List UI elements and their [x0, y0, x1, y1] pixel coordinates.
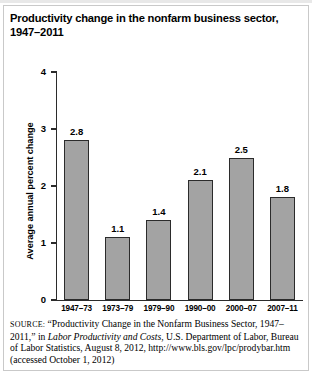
y-axis-tick [51, 185, 57, 186]
bar [229, 158, 254, 301]
bar-value-label: 2.1 [180, 167, 221, 177]
bar-value-label: 1.8 [262, 184, 303, 194]
bar [270, 197, 295, 300]
y-axis-tick-label: 3 [24, 124, 46, 134]
source-label: SOURCE: [10, 320, 45, 329]
y-axis-tick [51, 299, 57, 300]
bar-value-label: 2.8 [56, 127, 97, 137]
source-note: SOURCE: “Productivity Change in the Nonf… [10, 318, 306, 365]
bar-value-label: 1.4 [138, 207, 179, 217]
bar [146, 220, 171, 300]
source-publication-title: Labor Productivity and Costs [48, 331, 161, 342]
y-axis-tick [51, 242, 57, 243]
bar-value-label: 2.5 [221, 145, 262, 155]
y-axis-tick [51, 71, 57, 72]
x-axis-line [56, 300, 303, 301]
x-axis-tick-label: 2007–11 [258, 304, 307, 313]
bar [105, 237, 130, 300]
y-axis-tick-label: 2 [24, 181, 46, 191]
bar [64, 140, 89, 300]
bar-value-label: 1.1 [97, 224, 138, 234]
y-axis-tick-label: 4 [24, 67, 46, 77]
chart-plot-area: Average annual percent change 01234 2.81… [0, 0, 312, 312]
figure-container: Productivity change in the nonfarm busin… [0, 0, 312, 374]
y-axis-tick-label: 0 [24, 295, 46, 305]
y-axis-tick-label: 1 [24, 238, 46, 248]
bar [188, 180, 213, 300]
